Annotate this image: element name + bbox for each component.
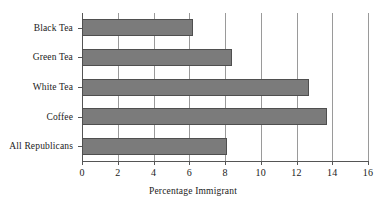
x-tick-14: [332, 161, 333, 165]
y-tick-label: Coffee: [0, 111, 73, 123]
x-tick-label-6: 6: [169, 167, 209, 179]
x-tick-16: [368, 161, 369, 165]
y-tick-label: White Tea: [0, 81, 73, 93]
x-tick-label-10: 10: [241, 167, 281, 179]
x-tick-label-2: 2: [98, 167, 138, 179]
bar: [82, 138, 227, 155]
x-tick-10: [261, 161, 262, 165]
bar-chart: Black TeaGreen TeaWhite TeaCoffeeAll Rep…: [0, 0, 386, 210]
bar: [82, 108, 327, 125]
x-tick-label-16: 16: [348, 167, 386, 179]
x-tick-label-0: 0: [62, 167, 102, 179]
bar: [82, 19, 193, 36]
x-tick-label-12: 12: [277, 167, 317, 179]
x-tick-0: [82, 161, 83, 165]
gridline-14: [332, 13, 333, 161]
bar: [82, 49, 232, 66]
y-tick-label: Black Tea: [0, 22, 73, 34]
bar: [82, 79, 309, 96]
y-tick-label: Green Tea: [0, 51, 73, 63]
y-tick: [78, 146, 82, 147]
x-tick-2: [118, 161, 119, 165]
x-tick-label-8: 8: [205, 167, 245, 179]
x-axis-title: Percentage Immigrant: [0, 185, 386, 197]
y-tick: [78, 117, 82, 118]
x-tick-label-4: 4: [134, 167, 174, 179]
x-tick-6: [189, 161, 190, 165]
y-tick-label: All Republicans: [0, 140, 73, 152]
x-tick-label-14: 14: [312, 167, 352, 179]
x-tick-4: [154, 161, 155, 165]
y-tick: [78, 28, 82, 29]
x-tick-8: [225, 161, 226, 165]
y-tick: [78, 57, 82, 58]
y-tick: [78, 87, 82, 88]
gridline-16: [368, 13, 369, 161]
x-tick-12: [297, 161, 298, 165]
